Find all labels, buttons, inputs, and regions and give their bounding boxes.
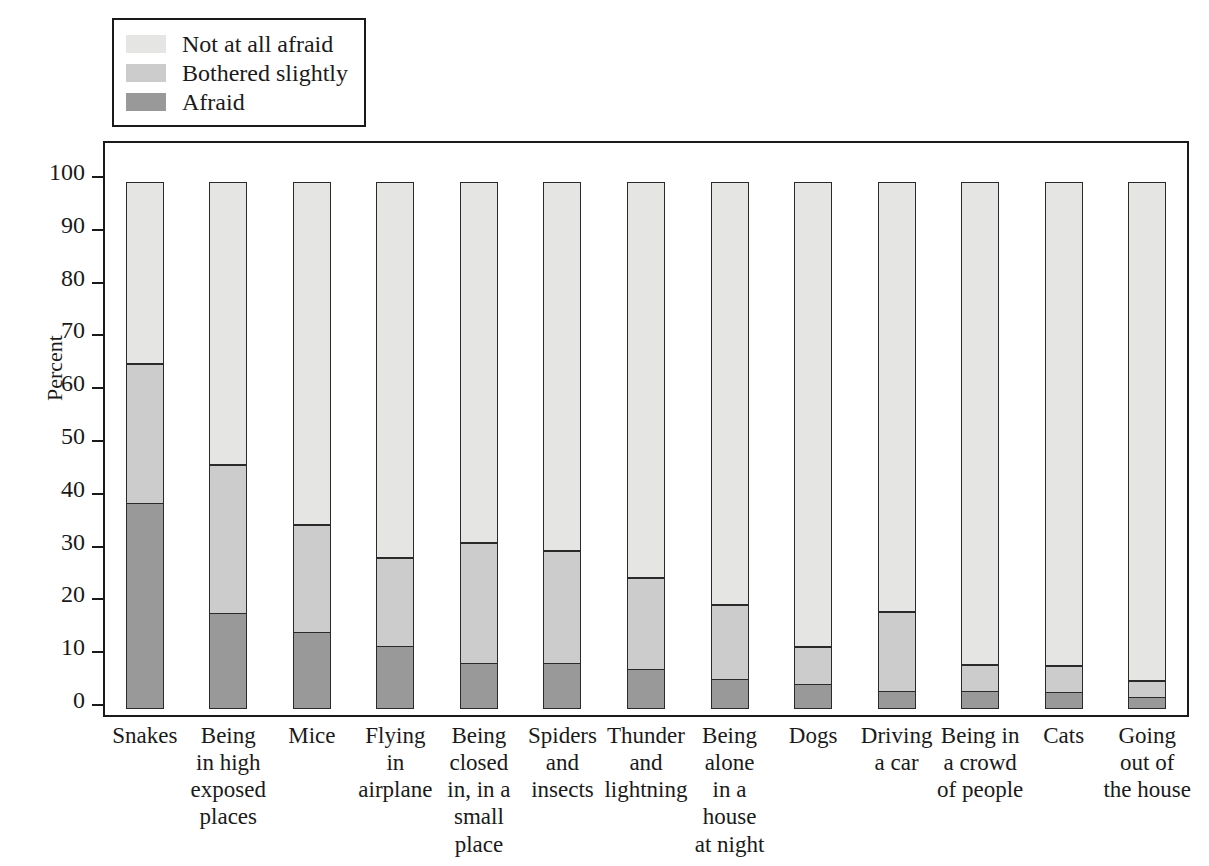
y-axis-tick-label: 40 (25, 477, 85, 501)
bar-segment[interactable] (878, 691, 916, 708)
bar-segment[interactable] (460, 543, 498, 664)
bar-segment[interactable] (1045, 692, 1083, 709)
y-axis-tick-label: 0 (25, 688, 85, 712)
bar-segment[interactable] (460, 663, 498, 708)
y-axis-tick-mark (92, 387, 103, 389)
bar-segment[interactable] (961, 182, 999, 665)
bar-stack[interactable] (878, 182, 916, 707)
y-axis-tick-label: 100 (25, 160, 85, 184)
bar-segment[interactable] (711, 605, 749, 681)
bar-stack[interactable] (794, 182, 832, 707)
bar-segment[interactable] (794, 684, 832, 709)
bar-segment[interactable] (711, 182, 749, 605)
bar-segment[interactable] (794, 182, 832, 647)
bar-stack[interactable] (1045, 182, 1083, 707)
y-axis-tick-label: 80 (25, 266, 85, 290)
bar-slot (437, 141, 521, 717)
bar-segment[interactable] (460, 182, 498, 543)
bar-slot (771, 141, 855, 717)
x-axis-label: Snakes (97, 722, 193, 749)
y-axis-tick-mark (92, 176, 103, 178)
bar-slot (354, 141, 438, 717)
bar-segment[interactable] (209, 613, 247, 708)
legend-item: Not at all afraid (126, 29, 348, 58)
bar-stack[interactable] (376, 182, 414, 707)
bar-segment[interactable] (293, 632, 331, 709)
bar-segment[interactable] (126, 503, 164, 709)
legend-item-label: Not at all afraid (182, 32, 333, 56)
bar-segment[interactable] (126, 182, 164, 364)
x-axis-labels: SnakesBeing in high exposed placesMiceFl… (103, 722, 1189, 866)
y-axis-ticks: 1009080706050403020100 (0, 141, 103, 717)
x-axis-label: Being in high exposed places (181, 722, 277, 831)
bar-segment[interactable] (376, 558, 414, 648)
bar-slot (604, 141, 688, 717)
x-axis-label: Flying in airplane (348, 722, 444, 803)
x-axis-label: Being in a crowd of people (932, 722, 1028, 803)
bar-segment[interactable] (1128, 681, 1166, 698)
x-axis-label: Going out of the house (1099, 722, 1195, 803)
bar-segment[interactable] (126, 364, 164, 504)
bar-segment[interactable] (293, 182, 331, 525)
chart-legend: Not at all afraidBothered slightlyAfraid (112, 18, 366, 127)
y-axis-tick-mark (92, 334, 103, 336)
y-axis-tick-mark (92, 440, 103, 442)
y-axis-tick-label: 30 (25, 530, 85, 554)
legend-item: Afraid (126, 87, 348, 116)
bar-segment[interactable] (1128, 182, 1166, 681)
bar-stack[interactable] (209, 182, 247, 707)
bar-stack[interactable] (961, 182, 999, 707)
y-axis-tick-mark (92, 598, 103, 600)
bar-slot (855, 141, 939, 717)
bar-stack[interactable] (543, 182, 581, 707)
bar-segment[interactable] (711, 679, 749, 709)
bar-stack[interactable] (460, 182, 498, 707)
bar-segment[interactable] (543, 551, 581, 665)
bar-segment[interactable] (543, 663, 581, 708)
bar-slot (521, 141, 605, 717)
bar-segment[interactable] (376, 646, 414, 708)
bar-stack[interactable] (293, 182, 331, 707)
bar-segment[interactable] (878, 182, 916, 612)
bar-slot (187, 141, 271, 717)
bar-stack[interactable] (126, 182, 164, 707)
bar-segment[interactable] (293, 525, 331, 633)
y-axis-tick-mark (92, 229, 103, 231)
bar-segment[interactable] (1045, 182, 1083, 666)
legend-swatch-icon (126, 64, 166, 82)
x-axis-label: Being alone in a house at night (682, 722, 778, 858)
bar-segment[interactable] (627, 669, 665, 708)
legend-swatch-icon (126, 35, 166, 53)
y-axis-tick-label: 10 (25, 635, 85, 659)
bar-stack[interactable] (711, 182, 749, 707)
y-axis-tick-mark (92, 493, 103, 495)
bar-segment[interactable] (543, 182, 581, 551)
bar-segment[interactable] (878, 612, 916, 693)
bar-segment[interactable] (1045, 666, 1083, 693)
bar-segment[interactable] (961, 665, 999, 692)
y-axis-tick-mark (92, 651, 103, 653)
bar-slot (103, 141, 187, 717)
bar-segment[interactable] (627, 182, 665, 578)
bar-stack[interactable] (627, 182, 665, 707)
x-axis-label: Cats (1016, 722, 1112, 749)
bar-segment[interactable] (961, 691, 999, 709)
y-axis-tick-label: 60 (25, 371, 85, 395)
bar-stack[interactable] (1128, 182, 1166, 707)
legend-item-label: Afraid (182, 90, 245, 114)
bar-segment[interactable] (1128, 697, 1166, 709)
x-axis-label: Thunder and lightning (598, 722, 694, 803)
y-axis-tick-mark (92, 282, 103, 284)
bar-segment[interactable] (794, 647, 832, 685)
bar-slot (1105, 141, 1189, 717)
bar-slot (270, 141, 354, 717)
y-axis-tick-mark (92, 704, 103, 706)
bars-area (103, 141, 1189, 717)
bar-segment[interactable] (627, 578, 665, 671)
bar-segment[interactable] (376, 182, 414, 558)
y-axis-tick-mark (92, 546, 103, 548)
bar-segment[interactable] (209, 182, 247, 464)
y-axis-tick-label: 50 (25, 424, 85, 448)
bar-segment[interactable] (209, 465, 247, 615)
bar-slot (938, 141, 1022, 717)
